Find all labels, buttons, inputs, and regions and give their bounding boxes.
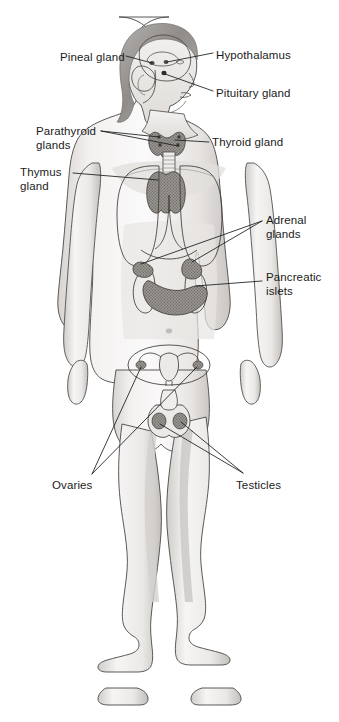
ovary-right [193, 361, 203, 369]
penis [161, 390, 178, 410]
left-foot [98, 688, 148, 705]
left-hand [68, 360, 88, 404]
right-foot [191, 688, 241, 705]
thymus-gland-organ [147, 172, 186, 213]
anatomy-illustration [0, 0, 339, 722]
right-hand [240, 360, 260, 404]
testicle-right [173, 413, 187, 429]
body-figure [58, 17, 283, 705]
trachea [163, 152, 175, 174]
right-arm [245, 163, 282, 367]
navel [166, 329, 172, 334]
parathyroid-lower-left [158, 143, 161, 146]
head-lateral-view [117, 23, 197, 125]
parathyroid-upper-right [177, 135, 180, 138]
anatomy-figure: Pineal gland Hypothalamus Pituitary glan… [0, 0, 339, 722]
